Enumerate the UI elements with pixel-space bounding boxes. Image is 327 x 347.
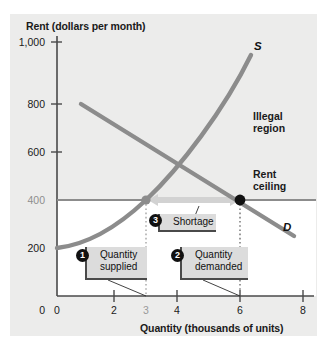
y-tick-label-600: 600 <box>11 146 45 158</box>
supply-curve-label: S <box>254 40 262 52</box>
y-tick-label-0: 0 <box>11 304 45 316</box>
callout-2-badge: 2 <box>171 249 184 262</box>
callout-1-text: Quantity supplied <box>92 249 141 273</box>
y-axis-title: Rent (dollars per month) <box>26 20 146 32</box>
callout-shortage: Shortage <box>158 214 216 232</box>
quantity-supplied-point <box>141 195 150 204</box>
y-tick-label-1000: 1,000 <box>11 36 45 48</box>
y-tick-label-200: 200 <box>11 242 45 254</box>
x-tick-label-0: 0 <box>47 304 67 316</box>
x-tick-label-8: 8 <box>293 304 313 316</box>
x-tick-label-3: 3 <box>136 304 156 316</box>
illegal-region-label: Illegal region <box>253 110 285 134</box>
y-tick-label-800: 800 <box>11 98 45 110</box>
rent-ceiling-chart: Rent (dollars per month) Quantity (thous… <box>0 0 327 347</box>
callout-quantity-demanded: Quantity demanded <box>180 247 248 280</box>
callout-3-text: Shortage <box>165 216 210 228</box>
demand-curve-label: D <box>283 221 291 233</box>
x-tick-label-2: 2 <box>104 304 124 316</box>
callout-3-badge: 3 <box>149 214 162 227</box>
y-tick-label-400: 400 <box>11 194 45 206</box>
rent-ceiling-label: Rent ceiling <box>253 168 286 192</box>
x-axis-title: Quantity (thousands of units) <box>140 322 284 334</box>
callout-1-badge: 1 <box>76 249 89 262</box>
callout-2-text: Quantity demanded <box>187 249 242 273</box>
x-tick-label-4: 4 <box>167 304 187 316</box>
quantity-demanded-point <box>235 195 246 206</box>
x-tick-label-6: 6 <box>230 304 250 316</box>
callout-quantity-supplied: Quantity supplied <box>85 247 147 280</box>
